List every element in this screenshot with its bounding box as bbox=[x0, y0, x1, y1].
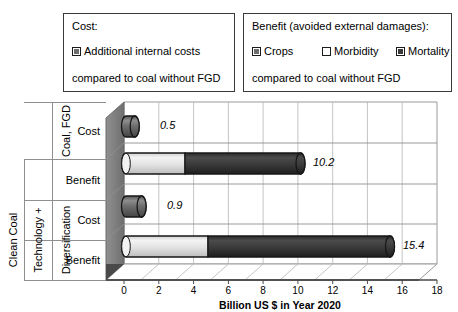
bar-coal-fgd-benefit bbox=[122, 153, 306, 174]
row-label-cct-benefit: Benefit bbox=[53, 240, 106, 280]
x-tick-16: 16 bbox=[390, 285, 414, 296]
category-label-panel: Coal, FGD Diversification Technology + C… bbox=[0, 96, 106, 286]
bar-cct-benefit bbox=[122, 236, 395, 257]
legend-label: Mortality bbox=[408, 45, 450, 57]
bar-coal-fgd-cost bbox=[122, 116, 140, 137]
legend-cost-note: compared to coal without FGD bbox=[72, 72, 221, 84]
data-label-cct-cost: 0.9 bbox=[167, 199, 182, 211]
legend-cost-box: Cost: Additional internal costs compared… bbox=[63, 13, 235, 92]
legend-benefit-note: compared to coal without FGD bbox=[252, 72, 401, 84]
data-label-cct-benefit: 15.4 bbox=[403, 239, 424, 251]
x-tick-6: 6 bbox=[216, 285, 240, 296]
group-label-cct-line1: Clean Coal bbox=[0, 200, 26, 280]
legend-item-morbidity: Morbidity bbox=[322, 45, 379, 57]
x-tick-12: 12 bbox=[321, 285, 345, 296]
x-tick-4: 4 bbox=[182, 285, 206, 296]
row-label-cct-cost: Cost bbox=[53, 200, 106, 240]
legend-swatch-icon bbox=[322, 47, 331, 56]
group-label-cct-line2: Technology + bbox=[24, 200, 52, 280]
legend-label: Crops bbox=[264, 45, 293, 57]
x-tick-10: 10 bbox=[286, 285, 310, 296]
legend-label: Morbidity bbox=[334, 45, 379, 57]
legend-benefit-title: Benefit (avoided external damages): bbox=[252, 20, 429, 32]
x-tick-0: 0 bbox=[112, 285, 136, 296]
legend-cost-title: Cost: bbox=[72, 20, 98, 32]
bar-cct-cost bbox=[122, 196, 147, 217]
x-tick-2: 2 bbox=[147, 285, 171, 296]
legend-benefit-box: Benefit (avoided external damages): Crop… bbox=[243, 13, 452, 92]
x-tick-18: 18 bbox=[425, 285, 449, 296]
row-label-coal-fgd-cost: Cost bbox=[53, 102, 106, 159]
legend-swatch-icon bbox=[252, 47, 261, 56]
row-label-coal-fgd-benefit: Benefit bbox=[53, 159, 106, 200]
chart-area: Coal, FGD Diversification Technology + C… bbox=[0, 96, 458, 312]
legend-swatch-icon bbox=[396, 47, 405, 56]
legend-swatch-icon bbox=[72, 47, 81, 56]
legend-label: Additional internal costs bbox=[84, 45, 200, 57]
legend-item-additional-internal-costs: Additional internal costs bbox=[72, 45, 200, 57]
x-tick-14: 14 bbox=[355, 285, 379, 296]
data-label-coal-fgd-cost: 0.5 bbox=[160, 119, 175, 131]
legend-item-crops: Crops bbox=[252, 45, 293, 57]
x-axis-title: Billion US $ in Year 2020 bbox=[180, 299, 380, 311]
x-tick-8: 8 bbox=[251, 285, 275, 296]
legend-item-mortality: Mortality bbox=[396, 45, 450, 57]
data-label-coal-fgd-benefit: 10.2 bbox=[313, 156, 334, 168]
